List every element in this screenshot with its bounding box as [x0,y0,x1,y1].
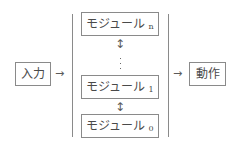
input-box: 入力 [15,62,51,86]
ellipsis-dot-1 [120,58,121,59]
stack-right-bar [168,14,169,137]
stack-left-bar [72,14,73,137]
output-label: 動作 [196,68,220,80]
module-0-box: モジュール0 [81,114,159,138]
input-label: 入力 [21,68,45,80]
bidirectional-arrow-1: ↕ [115,101,125,113]
ellipsis-dot-2 [120,63,121,64]
module-1-label: モジュール [86,81,145,93]
module-1-index: 1 [148,86,153,94]
ellipsis-dot-3 [120,68,121,69]
module-n-index: n [148,23,153,31]
module-n-box: モジュールn [81,12,159,36]
output-box: 動作 [189,62,226,86]
module-n-label: モジュール [86,18,145,30]
bidirectional-arrow-n: ↕ [115,38,125,50]
module-0-label: モジュール [86,120,145,132]
module-1-box: モジュール1 [81,75,159,99]
module-0-index: 0 [148,125,153,133]
arrow-stack-to-output: → [173,68,182,79]
arrow-input-to-stack: → [55,68,64,79]
